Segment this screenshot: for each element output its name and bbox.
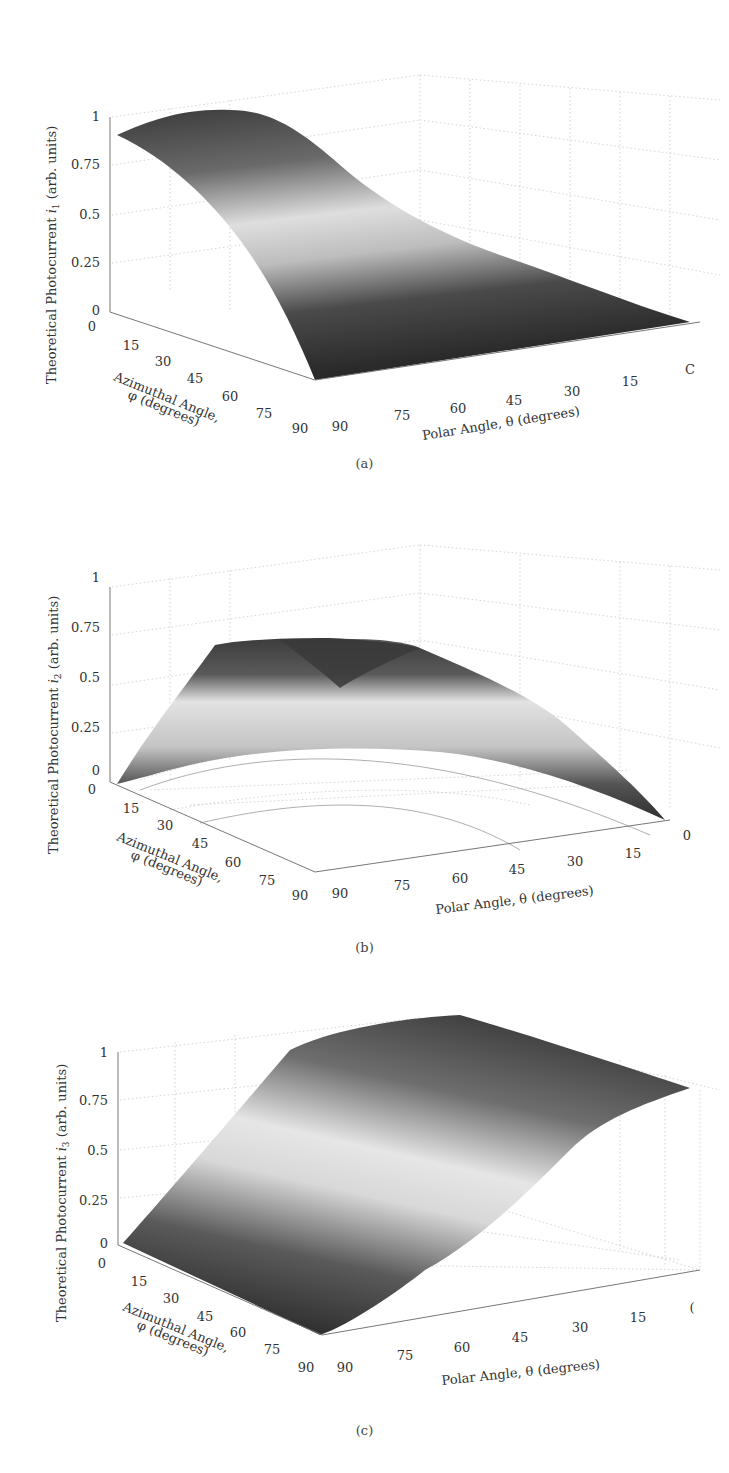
svg-text:15: 15 (630, 1310, 647, 1325)
z-axis-label: Theoretical Photocurrent i1 (arb. units) (44, 126, 61, 384)
svg-text:15: 15 (123, 801, 140, 816)
svg-text:0.75: 0.75 (71, 620, 100, 635)
svg-text:75: 75 (397, 1348, 414, 1363)
svg-text:45: 45 (506, 393, 523, 408)
chart-panel-c: 1 0.75 0.5 0.25 0 0 15 30 45 60 75 90 90… (0, 980, 729, 1473)
theta-axis-ticks: 90 75 60 45 30 15 0 (332, 828, 691, 901)
svg-text:15: 15 (131, 1274, 148, 1289)
svg-text:30: 30 (567, 854, 584, 869)
svg-text:90: 90 (298, 1360, 315, 1375)
svg-text:0.25: 0.25 (71, 255, 100, 270)
z-axis-label: Theoretical Photocurrent i3 (arb. units) (54, 1064, 71, 1322)
svg-text:0.5: 0.5 (79, 207, 100, 222)
svg-text:90: 90 (292, 421, 309, 436)
svg-text:0.25: 0.25 (71, 720, 100, 735)
svg-text:45: 45 (192, 836, 209, 851)
svg-text:60: 60 (452, 871, 469, 886)
svg-text:C: C (685, 362, 695, 377)
svg-text:30: 30 (155, 354, 172, 369)
svg-text:75: 75 (394, 878, 411, 893)
chart-panel-a: 1 0.75 0.5 0.25 0 0 15 30 45 60 75 90 90… (0, 0, 729, 470)
svg-text:30: 30 (572, 1320, 589, 1335)
surface-plot-a: 1 0.75 0.5 0.25 0 0 15 30 45 60 75 90 90… (0, 0, 729, 470)
svg-text:30: 30 (157, 818, 174, 833)
surface-plot-b: 1 0.75 0.5 0.25 0 0 15 30 45 60 75 90 90… (0, 490, 729, 960)
svg-text:0: 0 (683, 828, 691, 843)
z-axis-ticks: 1 0.75 0.5 0.25 0 (71, 570, 100, 778)
svg-text:90: 90 (332, 886, 349, 901)
svg-text:30: 30 (564, 384, 581, 399)
svg-text:90: 90 (292, 888, 309, 903)
svg-text:(: ( (689, 1300, 694, 1315)
svg-text:0: 0 (98, 1256, 106, 1271)
z-axis-ticks: 1 0.75 0.5 0.25 0 (79, 1045, 108, 1251)
svg-text:75: 75 (264, 1342, 281, 1357)
phi-axis-label: Azimuthal Angle, φ (degrees) (111, 368, 222, 429)
caption-a: (a) (0, 456, 729, 471)
phi-axis-label: Azimuthal Angle, φ (degrees) (120, 1298, 231, 1359)
surface-plot-c: 1 0.75 0.5 0.25 0 0 15 30 45 60 75 90 90… (0, 980, 729, 1473)
svg-text:45: 45 (512, 1330, 529, 1345)
svg-text:15: 15 (622, 374, 639, 389)
theta-axis-label: Polar Angle, θ (degrees) (421, 403, 581, 443)
svg-text:0: 0 (100, 1236, 108, 1251)
svg-text:0.75: 0.75 (79, 1093, 108, 1108)
caption-b: (b) (0, 940, 729, 955)
svg-text:90: 90 (337, 1360, 354, 1375)
z-axis-ticks: 1 0.75 0.5 0.25 0 (71, 109, 100, 318)
svg-text:15: 15 (123, 338, 140, 353)
svg-text:90: 90 (332, 419, 349, 434)
svg-text:0.75: 0.75 (71, 157, 100, 172)
theta-axis-label: Polar Angle, θ (degrees) (435, 883, 595, 917)
svg-text:1: 1 (92, 570, 100, 585)
surface-i3 (123, 1015, 690, 1335)
svg-text:45: 45 (187, 371, 204, 386)
svg-text:60: 60 (450, 401, 467, 416)
svg-text:0.5: 0.5 (87, 1143, 108, 1158)
caption-c: (c) (0, 1423, 729, 1438)
phi-axis-label: Azimuthal Angle, φ (degrees) (114, 828, 225, 889)
surface-i1 (117, 110, 690, 380)
chart-panel-b: 1 0.75 0.5 0.25 0 0 15 30 45 60 75 90 90… (0, 490, 729, 960)
svg-text:60: 60 (225, 855, 242, 870)
svg-text:60: 60 (454, 1340, 471, 1355)
svg-text:30: 30 (163, 1291, 180, 1306)
svg-text:0: 0 (88, 319, 96, 334)
svg-text:60: 60 (222, 389, 239, 404)
surface-i2 (117, 638, 665, 820)
svg-text:1: 1 (92, 109, 100, 124)
z-axis-label: Theoretical Photocurrent i2 (arb. units) (46, 596, 63, 854)
svg-text:45: 45 (197, 1309, 214, 1324)
svg-text:75: 75 (256, 406, 273, 421)
svg-text:0: 0 (92, 763, 100, 778)
theta-axis-ticks: 90 75 60 45 30 15 ( (337, 1300, 695, 1375)
svg-text:75: 75 (259, 873, 276, 888)
svg-text:60: 60 (230, 1325, 247, 1340)
svg-text:1: 1 (100, 1045, 108, 1060)
svg-text:0.25: 0.25 (79, 1193, 108, 1208)
svg-text:45: 45 (509, 862, 526, 877)
svg-text:0.5: 0.5 (79, 670, 100, 685)
theta-axis-label: Polar Angle, θ (degrees) (441, 1356, 601, 1388)
svg-text:0: 0 (92, 303, 100, 318)
svg-text:15: 15 (625, 846, 642, 861)
svg-text:0: 0 (88, 782, 96, 797)
svg-text:75: 75 (394, 408, 411, 423)
